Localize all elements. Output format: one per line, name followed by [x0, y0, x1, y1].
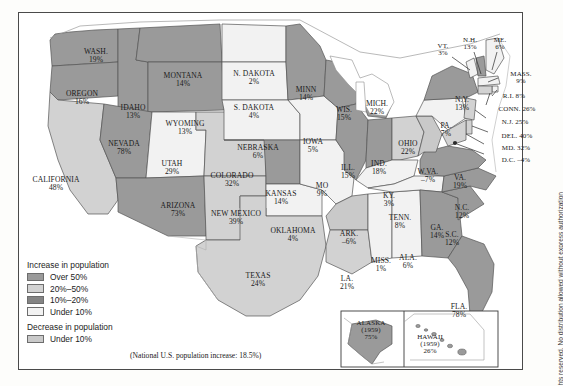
legend-swatch-under-10: [27, 307, 44, 316]
legend-heading-decrease: Decrease in population: [27, 322, 173, 332]
state-shape-rhodeisland[interactable]: [492, 86, 498, 92]
state-shape-southdakota[interactable]: [222, 62, 288, 100]
state-shape-arizona[interactable]: [116, 176, 206, 236]
legend-label-over-50: Over 50%: [50, 272, 87, 282]
map-legend: Increase in population Over 50% 20%–50% …: [27, 260, 173, 346]
legend-item-over-50[interactable]: Over 50%: [27, 272, 173, 282]
state-shape-northdakota[interactable]: [222, 24, 286, 62]
state-shape-dc[interactable]: [453, 141, 457, 145]
state-shape-minnesota[interactable]: [286, 24, 326, 100]
legend-label-20-50: 20%–50%: [50, 284, 88, 294]
state-shape-connecticut[interactable]: [478, 86, 492, 94]
state-shape-indiana[interactable]: [366, 118, 392, 168]
state-shape-wyoming[interactable]: [148, 62, 224, 112]
legend-item-decrease-under-10[interactable]: Under 10%: [27, 334, 173, 344]
legend-item-under-10[interactable]: Under 10%: [27, 307, 173, 317]
state-shape-alabama[interactable]: [392, 190, 422, 258]
legend-swatch-decrease-under-10: [27, 335, 44, 344]
legend-heading-increase: Increase in population: [27, 260, 173, 270]
leader-line-md: [466, 134, 484, 144]
legend-swatch-10-20: [27, 296, 44, 305]
leader-line-conn: [486, 93, 490, 105]
lake-michigan-water: [356, 82, 366, 112]
legend-label-10-20: 10%–20%: [50, 295, 88, 305]
leader-line-del: [472, 126, 488, 132]
legend-item-20-50[interactable]: 20%–50%: [27, 284, 173, 294]
state-shape-washington[interactable]: [50, 29, 118, 66]
state-shape-florida[interactable]: [448, 236, 494, 314]
state-shape-massachusetts[interactable]: [478, 76, 500, 86]
legend-label-under-10: Under 10%: [50, 307, 92, 317]
state-shape-newjersey[interactable]: [464, 98, 476, 120]
state-shape-delaware[interactable]: [466, 120, 472, 134]
population-map-figure: WASH. 19% OREGON 16% IDAHO 13% MONTANA 1…: [0, 0, 563, 386]
legend-swatch-20-50: [27, 284, 44, 293]
copyright-notice: © Cengage Learning. All rights reserved.…: [557, 192, 563, 386]
national-increase-note: (National U.S. population increase: 18.5…: [130, 351, 261, 360]
legend-label-decrease-under-10: Under 10%: [50, 334, 92, 344]
state-shape-nebraska[interactable]: [222, 100, 300, 140]
state-shape-mississippi[interactable]: [368, 192, 392, 262]
state-shape-louisiana[interactable]: [326, 230, 372, 274]
legend-item-10-20[interactable]: 10%–20%: [27, 295, 173, 305]
legend-swatch-over-50: [27, 273, 44, 282]
leader-line-nj: [475, 110, 486, 118]
state-shape-oregon[interactable]: [50, 62, 118, 100]
state-shape-montana[interactable]: [136, 24, 222, 62]
